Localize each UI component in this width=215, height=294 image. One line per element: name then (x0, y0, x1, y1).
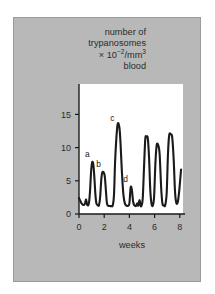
x-tick-label-4: 4 (127, 222, 132, 232)
y-tick-label-0: 0 (66, 209, 71, 219)
figure-canvas: number of trypanosomes × 10−2/mm3 blood (0, 0, 215, 294)
x-axis-tick-labels: 0 2 4 6 8 (76, 222, 182, 232)
x-tick-label-8: 8 (177, 222, 182, 232)
x-axis-title: weeks (118, 240, 145, 250)
y-axis-tick-labels: 0 5 10 15 (61, 110, 71, 220)
peak-label-b: b (96, 159, 101, 169)
plot-area-wrapper: 0 5 10 15 0 2 4 6 (14, 18, 202, 283)
peak-label-d: d (123, 174, 128, 184)
trypanosome-line-chart: 0 5 10 15 0 2 4 6 (14, 18, 202, 283)
x-tick-label-0: 0 (76, 222, 81, 232)
y-tick-label-5: 5 (66, 176, 71, 186)
x-tick-label-2: 2 (102, 222, 107, 232)
y-tick-label-10: 10 (61, 143, 71, 153)
chart-panel: number of trypanosomes × 10−2/mm3 blood (13, 17, 201, 282)
y-tick-label-15: 15 (61, 110, 71, 120)
peak-label-a: a (85, 149, 90, 159)
peak-label-c: c (110, 113, 114, 123)
x-tick-label-6: 6 (152, 222, 157, 232)
